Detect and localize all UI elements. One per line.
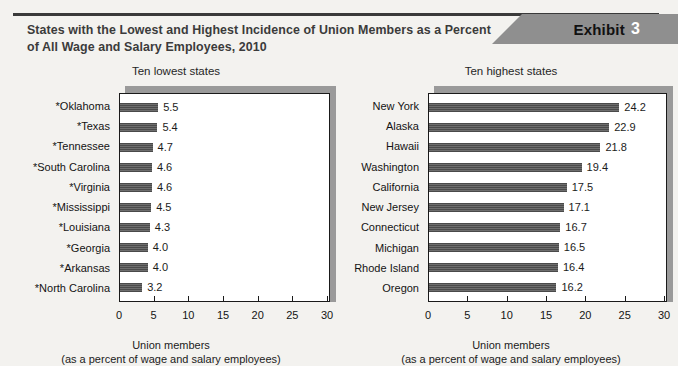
x-tick — [664, 296, 665, 302]
category-label: *North Carolina — [8, 282, 115, 295]
bar — [429, 243, 559, 252]
bar-row: 4.6 — [120, 161, 329, 174]
bar — [429, 183, 567, 192]
bar-row: 5.4 — [120, 121, 329, 134]
category-label: Oregon — [344, 282, 424, 295]
plot-frame-right: 24.222.921.819.417.517.116.716.516.416.2 — [428, 93, 667, 302]
bar — [429, 163, 582, 172]
category-label: Washington — [344, 161, 424, 174]
bar-value-label: 16.2 — [561, 282, 582, 293]
exhibit-label: Exhibit — [573, 21, 624, 38]
x-tick-label: 25 — [619, 309, 631, 321]
bar-value-label: 4.3 — [155, 222, 170, 233]
category-label: Hawaii — [344, 140, 424, 153]
x-tick-label: 0 — [116, 309, 122, 321]
x-tick-label: 25 — [286, 309, 298, 321]
bar — [429, 283, 556, 292]
bar-value-label: 4.5 — [156, 202, 171, 213]
category-label: *Arkansas — [8, 262, 115, 275]
x-tick-label: 5 — [464, 309, 470, 321]
bar-row: 21.8 — [429, 141, 666, 154]
x-axis-tick-labels-right: 051015202530 — [428, 308, 667, 323]
bar-row: 16.4 — [429, 261, 666, 274]
page-title: States with the Lowest and Highest Incid… — [27, 22, 497, 56]
bar-value-label: 16.4 — [563, 262, 584, 273]
bar — [120, 283, 142, 292]
x-tick-label: 15 — [217, 309, 229, 321]
bar — [429, 103, 619, 112]
bar-value-label: 19.4 — [587, 162, 608, 173]
bar-rows-left: 5.55.44.74.64.64.54.34.04.03.2 — [120, 94, 329, 301]
category-labels-left: *Oklahoma*Texas*Tennessee*South Carolina… — [8, 93, 115, 302]
chart-ten-lowest-states: Ten lowest states *Oklahoma*Texas*Tennes… — [8, 62, 344, 362]
category-label: *Mississippi — [8, 201, 115, 214]
bar-row: 5.5 — [120, 101, 329, 114]
bar-value-label: 4.0 — [153, 262, 168, 273]
chart-subtitle-left: Ten lowest states — [8, 62, 344, 80]
bar-row: 24.2 — [429, 101, 666, 114]
bar-value-label: 4.0 — [153, 242, 168, 253]
bar-row: 4.7 — [120, 141, 329, 154]
bar-value-label: 3.2 — [147, 282, 162, 293]
bar-row: 17.5 — [429, 181, 666, 194]
category-label: New Jersey — [344, 201, 424, 214]
bar-row: 16.5 — [429, 241, 666, 254]
bar-row: 4.5 — [120, 201, 329, 214]
category-label: *Georgia — [8, 242, 115, 255]
bar — [429, 223, 560, 232]
bar — [120, 103, 158, 112]
x-tick-label: 20 — [252, 309, 264, 321]
x-tick-label: 10 — [182, 309, 194, 321]
x-tick-label: 10 — [501, 309, 513, 321]
bar — [429, 123, 609, 132]
chart-ten-highest-states: Ten highest states New YorkAlaskaHawaiiW… — [344, 62, 678, 362]
bar-value-label: 4.7 — [158, 142, 173, 153]
x-axis-caption-right: Union members (as a percent of wage and … — [344, 338, 678, 366]
x-axis-tick-labels-left: 051015202530 — [119, 308, 330, 323]
exhibit-banner-text: Exhibit 3 — [492, 14, 664, 44]
x-tick-label: 30 — [658, 309, 670, 321]
x-tick — [292, 296, 293, 302]
x-tick — [223, 296, 224, 302]
category-label: Rhode Island — [344, 262, 424, 275]
category-label: California — [344, 181, 424, 194]
x-tick-label: 0 — [425, 309, 431, 321]
bar — [429, 263, 558, 272]
x-tick — [154, 296, 155, 302]
exhibit-page: Exhibit 3 States with the Lowest and Hig… — [0, 0, 678, 366]
x-tick — [467, 296, 468, 302]
bar — [120, 183, 152, 192]
bar-row: 19.4 — [429, 161, 666, 174]
bar-row: 4.6 — [120, 181, 329, 194]
bar — [120, 223, 150, 232]
bar-row: 4.3 — [120, 221, 329, 234]
plot-frame-left: 5.55.44.74.64.64.54.34.04.03.2 — [119, 93, 330, 302]
x-tick — [507, 296, 508, 302]
bar-row: 16.2 — [429, 281, 666, 294]
bar-value-label: 16.7 — [565, 222, 586, 233]
x-tick-label: 15 — [540, 309, 552, 321]
bar-value-label: 5.4 — [162, 122, 177, 133]
bar — [120, 123, 157, 132]
x-tick — [327, 296, 328, 302]
bar — [429, 143, 600, 152]
category-label: *South Carolina — [8, 161, 115, 174]
category-labels-right: New YorkAlaskaHawaiiWashingtonCalifornia… — [344, 93, 424, 302]
bar-row: 22.9 — [429, 121, 666, 134]
bar — [120, 203, 151, 212]
bar-value-label: 4.6 — [157, 162, 172, 173]
bar-row: 17.1 — [429, 201, 666, 214]
bar-value-label: 17.5 — [572, 182, 593, 193]
bar — [429, 203, 564, 212]
category-label: Alaska — [344, 120, 424, 133]
bar — [120, 243, 148, 252]
chart-subtitle-right: Ten highest states — [344, 62, 678, 80]
bar-row: 4.0 — [120, 241, 329, 254]
exhibit-number: 3 — [631, 20, 640, 38]
x-tick-label: 20 — [579, 309, 591, 321]
bar-value-label: 5.5 — [163, 102, 178, 113]
category-label: New York — [344, 100, 424, 113]
category-label: Michigan — [344, 242, 424, 255]
bar-value-label: 22.9 — [614, 122, 635, 133]
bar-row: 16.7 — [429, 221, 666, 234]
